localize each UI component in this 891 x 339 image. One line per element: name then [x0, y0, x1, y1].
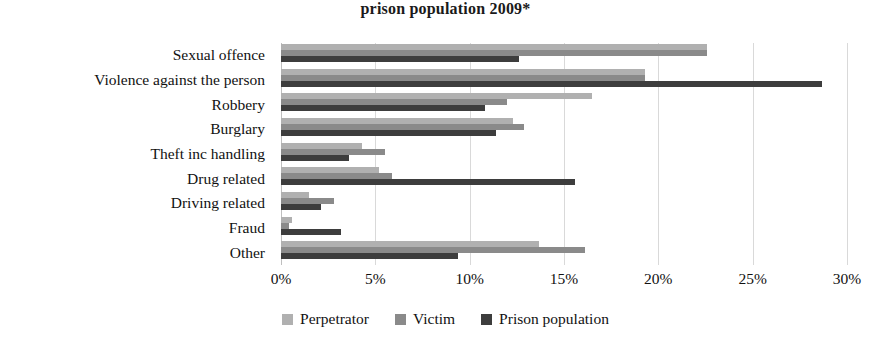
chart-title: prison population 2009*: [0, 0, 891, 18]
bar-prison-population: [281, 204, 321, 210]
y-axis-label: Theft inc handling: [151, 146, 266, 162]
x-tick-label: 20%: [644, 270, 672, 288]
y-axis-label: Violence against the person: [94, 72, 265, 88]
bar-group: [281, 240, 847, 265]
bar-prison-population: [281, 56, 519, 62]
legend-item[interactable]: Victim: [395, 310, 455, 328]
legend-label: Prison population: [499, 310, 609, 328]
bar-prison-population: [281, 179, 575, 185]
y-axis-label: Fraud: [229, 220, 265, 236]
y-axis-label: Drug related: [187, 171, 265, 187]
chart-container: prison population 2009* Sexual offenceVi…: [0, 0, 891, 339]
chart-legend: PerpetratorVictimPrison population: [0, 310, 891, 328]
x-tick-label: 15%: [550, 270, 578, 288]
x-tick-label: 10%: [455, 270, 483, 288]
legend-label: Victim: [413, 310, 455, 328]
plot-area: [281, 43, 847, 265]
bar-group: [281, 117, 847, 142]
bar-prison-population: [281, 229, 341, 235]
y-axis-label: Driving related: [171, 195, 265, 211]
y-axis-category-labels: Sexual offenceViolence against the perso…: [0, 43, 273, 265]
bar-rows: [281, 43, 847, 265]
bar-prison-population: [281, 81, 822, 87]
legend-item[interactable]: Perpetrator: [282, 310, 369, 328]
bar-prison-population: [281, 253, 458, 259]
x-tick-label: 30%: [833, 270, 861, 288]
y-axis-label: Burglary: [210, 121, 265, 137]
bar-group: [281, 142, 847, 167]
bar-prison-population: [281, 155, 349, 161]
legend-label: Perpetrator: [300, 310, 369, 328]
bar-group: [281, 191, 847, 216]
x-axis-tick-labels: 0%5%10%15%20%25%30%: [281, 270, 847, 292]
gridline-30: [847, 43, 848, 265]
x-tick-label: 25%: [738, 270, 766, 288]
legend-swatch-icon: [282, 314, 293, 325]
legend-swatch-icon: [481, 314, 492, 325]
bar-group: [281, 43, 847, 68]
y-axis-label: Sexual offence: [173, 47, 265, 63]
bar-group: [281, 166, 847, 191]
bar-prison-population: [281, 130, 496, 136]
bar-group: [281, 92, 847, 117]
bar-group: [281, 216, 847, 241]
x-tick-label: 0%: [271, 270, 292, 288]
y-axis-label: Robbery: [212, 97, 265, 113]
bar-prison-population: [281, 105, 485, 111]
bar-group: [281, 68, 847, 93]
legend-swatch-icon: [395, 314, 406, 325]
y-axis-label: Other: [230, 245, 265, 261]
x-tick-label: 5%: [365, 270, 386, 288]
legend-item[interactable]: Prison population: [481, 310, 609, 328]
